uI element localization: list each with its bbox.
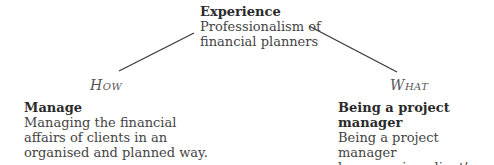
left-node-line: affairs of clients in an: [24, 130, 208, 145]
connector-left: [119, 33, 194, 71]
left-node: Manage Managing the financial affairs of…: [24, 100, 208, 160]
right-node-line: Being a project manager: [338, 130, 494, 160]
what-label: What: [390, 77, 428, 93]
top-node-line: financial planners: [200, 34, 321, 49]
right-node-title: Being a project manager: [338, 100, 494, 130]
connector-right: [309, 26, 397, 72]
left-node-line: Managing the financial: [24, 115, 208, 130]
how-label: How: [90, 77, 122, 93]
right-node: Being a project manager Being a project …: [338, 100, 494, 165]
top-node-line: Professionalism of: [200, 19, 321, 34]
top-node: Experience Professionalism of financial …: [200, 4, 321, 49]
right-node-line: by managing client’s: [338, 160, 494, 165]
top-node-title: Experience: [200, 4, 321, 19]
left-node-title: Manage: [24, 100, 208, 115]
left-node-line: organised and planned way.: [24, 145, 208, 160]
